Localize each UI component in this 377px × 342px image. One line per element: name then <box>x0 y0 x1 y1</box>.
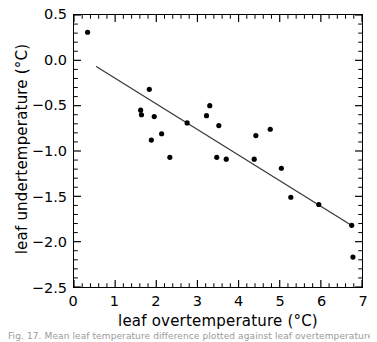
minor-tick-marks <box>74 15 362 287</box>
x-tick-label: 4 <box>224 294 254 309</box>
x-tick-label: 6 <box>307 294 337 309</box>
y-axis-title: leaf undertemperature (°C) <box>13 9 31 289</box>
x-tick-label: 1 <box>99 294 129 309</box>
major-tick-marks <box>74 15 362 287</box>
x-tick-label: 5 <box>265 294 295 309</box>
plot-canvas <box>74 15 362 287</box>
x-tick-label: 7 <box>348 294 377 309</box>
figure-scatter-plot: leaf undertemperature (°C) leaf overtemp… <box>0 0 377 342</box>
plot-area <box>73 14 363 288</box>
x-tick-label: 3 <box>182 294 212 309</box>
trend-line <box>97 67 353 227</box>
x-tick-label: 0 <box>58 294 88 309</box>
data-point-markers <box>85 30 356 260</box>
x-tick-label: 2 <box>141 294 171 309</box>
figure-caption: Fig. 17. Mean leaf temperature differenc… <box>8 331 370 342</box>
x-axis-title: leaf overtemperature (°C) <box>73 312 363 330</box>
